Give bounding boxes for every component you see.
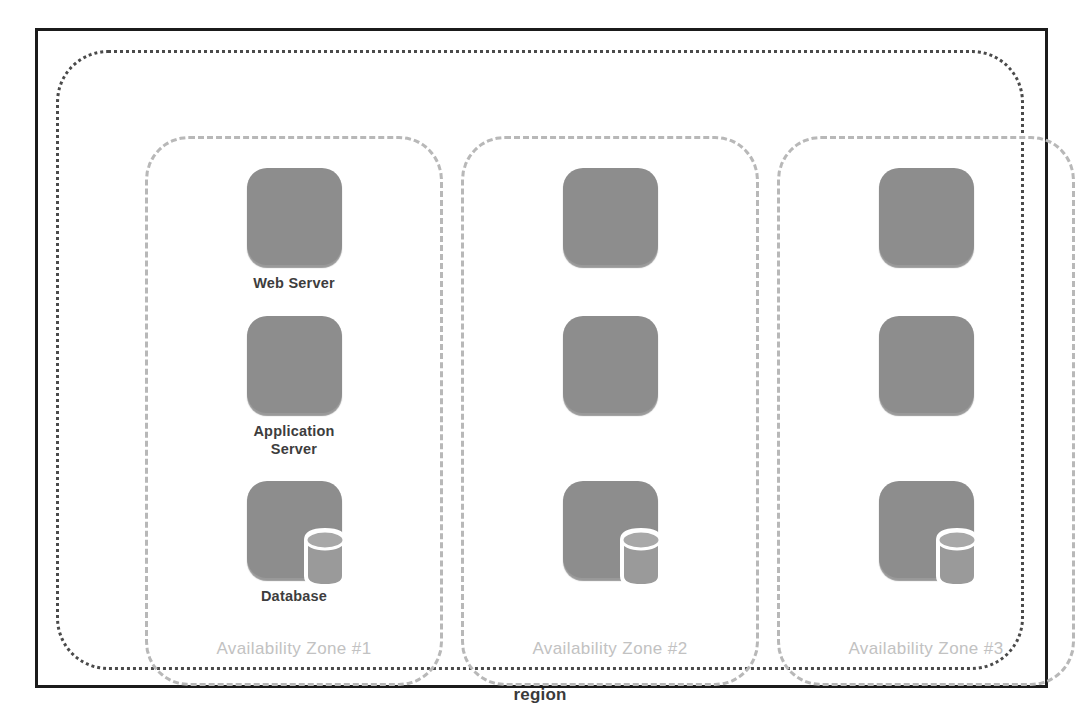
node-application-server-zone-2[interactable]: Application Server	[547, 316, 673, 458]
database-square-icon	[247, 481, 342, 578]
server-square-icon	[247, 168, 342, 265]
server-square-icon	[879, 316, 974, 413]
region-label: region	[59, 685, 1021, 705]
availability-zone-2: Web Server Application Server Database	[461, 136, 759, 686]
database-square-icon	[563, 481, 658, 578]
node-web-server-zone-1[interactable]: Web Server	[231, 168, 357, 292]
node-application-server-zone-3[interactable]: Application Server	[863, 316, 989, 458]
database-cylinder-icon	[620, 526, 662, 588]
server-square-icon	[563, 168, 658, 265]
database-cylinder-icon	[936, 526, 978, 588]
node-database-zone-3[interactable]: Database	[863, 481, 989, 605]
node-web-server-zone-3[interactable]: Web Server	[863, 168, 989, 292]
server-square-icon	[563, 316, 658, 413]
availability-zone-1: Web Server Application Server Database	[145, 136, 443, 686]
availability-zone-3-label: Availability Zone #3	[780, 639, 1072, 659]
node-web-server-zone-2[interactable]: Web Server	[547, 168, 673, 292]
availability-zone-3: Web Server Application Server Database	[777, 136, 1075, 686]
database-cylinder-icon	[304, 526, 346, 588]
node-database-zone-1[interactable]: Database	[231, 481, 357, 605]
node-label: Database	[231, 587, 357, 605]
node-application-server-zone-1[interactable]: Application Server	[231, 316, 357, 458]
diagram-canvas: Web Server Application Server Database	[0, 0, 1079, 722]
node-label: Web Server	[231, 274, 357, 292]
availability-zone-1-label: Availability Zone #1	[148, 639, 440, 659]
region-boundary: Web Server Application Server Database	[56, 50, 1024, 670]
server-square-icon	[247, 316, 342, 413]
server-square-icon	[879, 168, 974, 265]
database-square-icon	[879, 481, 974, 578]
node-label: Application Server	[231, 422, 357, 458]
node-database-zone-2[interactable]: Database	[547, 481, 673, 605]
availability-zone-2-label: Availability Zone #2	[464, 639, 756, 659]
